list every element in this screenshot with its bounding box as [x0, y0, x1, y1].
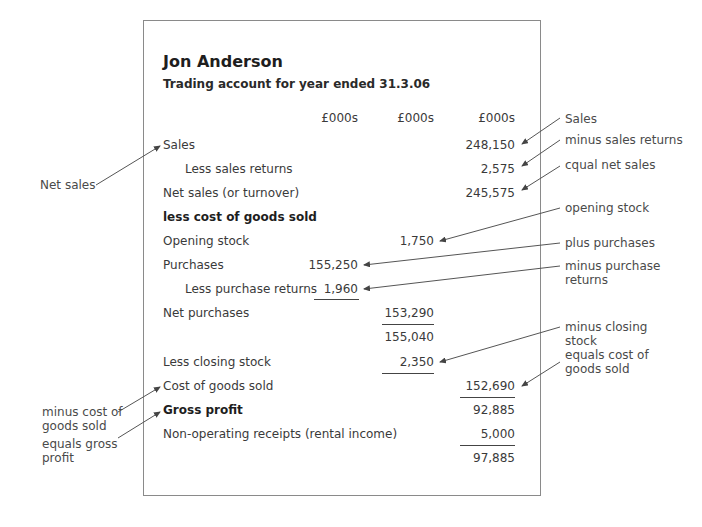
arrow-equals-gross — [118, 412, 160, 438]
arrow-equal-net-sales — [522, 166, 560, 190]
arrow-net-sales — [96, 146, 160, 185]
arrow-opening-stock — [440, 208, 560, 241]
arrow-plus-purchases — [364, 243, 560, 265]
arrow-minus-purchase-returns — [364, 266, 560, 289]
arrow-minus-cogs — [118, 387, 160, 412]
arrow-sales — [522, 118, 560, 144]
arrow-minus-closing-stock — [440, 327, 560, 362]
arrow-minus-sales-returns — [522, 140, 560, 166]
annotation-arrows — [0, 0, 702, 527]
arrow-equals-cogs — [522, 362, 560, 386]
